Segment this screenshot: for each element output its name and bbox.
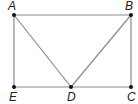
point-E xyxy=(12,85,16,89)
points xyxy=(12,13,133,89)
segments xyxy=(14,15,131,87)
label-D: D xyxy=(67,90,76,104)
label-B: B xyxy=(125,0,133,13)
point-B xyxy=(129,13,133,17)
label-A: A xyxy=(7,0,16,13)
label-E: E xyxy=(9,90,18,104)
point-D xyxy=(69,85,73,89)
segment-AD xyxy=(14,15,71,87)
point-A xyxy=(12,13,16,17)
geometry-diagram: ABCDE xyxy=(0,0,138,104)
label-C: C xyxy=(127,90,136,104)
segment-BD xyxy=(71,15,131,87)
point-C xyxy=(129,85,133,89)
